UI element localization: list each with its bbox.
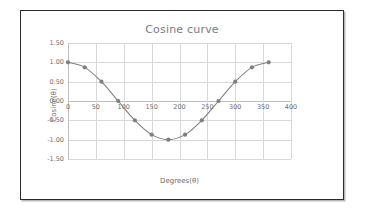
data-point-marker[interactable] <box>216 99 220 103</box>
y-tick-label: -1.00 <box>47 136 64 144</box>
y-tick-label: 0.50 <box>50 78 64 86</box>
y-tick-label: -1.50 <box>47 155 64 163</box>
data-point-marker[interactable] <box>267 60 271 64</box>
data-point-marker[interactable] <box>200 118 204 122</box>
data-point-marker[interactable] <box>233 80 237 84</box>
y-tick-label: -0.50 <box>47 116 64 124</box>
y-tick-label: 0.00 <box>50 97 64 105</box>
x-axis-title: Degrees(θ) <box>68 177 291 185</box>
screenshot-canvas: Cosine curve Cosine(θ) Degrees(θ) -1.50-… <box>0 0 372 219</box>
data-point-marker[interactable] <box>250 65 254 69</box>
y-tick-label: 1.00 <box>50 58 64 66</box>
gridline-horizontal <box>68 159 291 160</box>
data-point-marker[interactable] <box>183 133 187 137</box>
data-point-marker[interactable] <box>99 80 103 84</box>
data-point-marker[interactable] <box>133 118 137 122</box>
plot-area[interactable]: -1.50-1.00-0.500.000.501.001.50 05010015… <box>68 43 291 159</box>
data-point-marker[interactable] <box>66 60 70 64</box>
data-point-marker[interactable] <box>116 99 120 103</box>
gridline-vertical <box>291 43 292 159</box>
chart-frame[interactable]: Cosine curve Cosine(θ) Degrees(θ) -1.50-… <box>20 10 344 200</box>
data-point-marker[interactable] <box>166 138 170 142</box>
series-line <box>68 62 269 139</box>
data-point-marker[interactable] <box>150 133 154 137</box>
series-cosine <box>68 43 291 159</box>
chart-title: Cosine curve <box>21 23 343 36</box>
y-tick-label: 1.50 <box>50 39 64 47</box>
data-point-marker[interactable] <box>83 65 87 69</box>
